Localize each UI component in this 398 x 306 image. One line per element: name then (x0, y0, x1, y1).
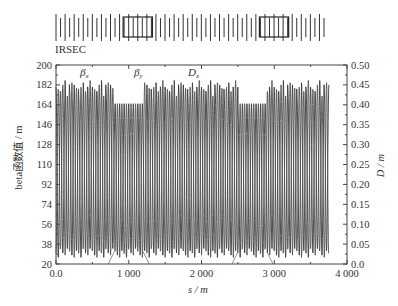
x-tick-label: 1 000 (117, 268, 141, 279)
y-left-tick-label: 110 (37, 159, 52, 170)
beta-x-line (56, 80, 329, 257)
y-right-tick-label: 0.25 (351, 159, 369, 170)
y-axis-left-label: beta函数值 / m (10, 103, 25, 213)
y-right-tick-label: 0.05 (351, 239, 369, 250)
series-annotation-subscript: y (138, 72, 143, 80)
series-annotation-subscript: x (84, 72, 89, 80)
y-right-tick-label: 0.50 (351, 60, 369, 71)
y-left-tick-label: 56 (42, 219, 53, 230)
x-tick-label: 0.0 (49, 268, 62, 279)
y-axis-right-label: D / m (375, 146, 386, 186)
series-annotation: βy (133, 66, 143, 80)
y-left-tick-label: 200 (36, 60, 52, 71)
series-annotation-subscript: x (195, 72, 200, 80)
series-annotation: Dx (187, 66, 200, 80)
y-right-tick-label: 0.40 (351, 99, 369, 110)
y-left-tick-label: 74 (42, 199, 53, 210)
y-left-tick-label: 146 (36, 119, 52, 130)
y-left-tick-label: 164 (36, 99, 53, 110)
lattice-label: IRSEC (55, 43, 86, 55)
y-right-tick-label: 0.20 (351, 179, 369, 190)
x-axis-label: s / m (188, 284, 208, 295)
y-right-tick-label: 0.10 (351, 219, 369, 230)
y-right-tick-label: 0.30 (351, 139, 369, 150)
y-left-tick-label: 38 (42, 239, 53, 250)
x-tick-label: 2 000 (190, 268, 214, 279)
x-tick-label: 3 000 (262, 268, 286, 279)
series-annotation: βx (79, 66, 89, 80)
beta-function-chart: 20385674921101281461641822000.00.050.100… (0, 55, 398, 306)
y-right-tick-label: 0.45 (351, 79, 369, 90)
y-left-tick-label: 182 (36, 79, 52, 90)
y-right-tick-label: 0.15 (351, 199, 369, 210)
y-left-tick-label: 128 (36, 139, 52, 150)
y-left-tick-label: 92 (42, 179, 53, 190)
y-right-tick-label: 0.35 (351, 119, 369, 130)
x-tick-label: 4 000 (335, 268, 359, 279)
